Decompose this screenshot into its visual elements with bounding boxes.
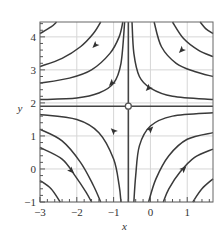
- trajectory-lower-right-2: [149, 133, 213, 202]
- y-axis-label: y: [17, 102, 23, 114]
- phase-portrait-chart: −3−2−101 −101234 x y: [0, 0, 224, 249]
- x-tick-label: 0: [148, 206, 154, 218]
- trajectory-upper-right-2: [154, 22, 213, 76]
- x-tick-labels: −3−2−101: [34, 206, 190, 218]
- arrow-icon: [177, 46, 186, 55]
- y-tick-label: 3: [31, 64, 37, 76]
- x-axis-label: x: [121, 220, 127, 232]
- y-tick-labels: −101234: [24, 31, 36, 208]
- trajectory-lower-left-3: [40, 148, 92, 202]
- y-tick-label: 1: [31, 130, 37, 142]
- trajectory-upper-right-3: [173, 22, 213, 57]
- grid-lines: [40, 22, 213, 202]
- y-tick-label: −1: [24, 196, 36, 208]
- trajectory-lower-right-4: [193, 179, 213, 202]
- y-tick-label: 0: [31, 163, 37, 175]
- x-tick-label: 1: [184, 206, 190, 218]
- trajectory-lower-right-3: [163, 149, 213, 202]
- trajectory-upper-right-4: [200, 22, 213, 34]
- trajectory-lower-left-1: [40, 114, 121, 202]
- trajectory-lower-left-4: [40, 181, 60, 202]
- arrow-icon: [144, 84, 153, 93]
- x-tick-label: −2: [71, 206, 83, 218]
- trajectory-upper-left-3: [40, 22, 123, 83]
- arrow-icon: [90, 41, 99, 50]
- y-tick-label: 2: [31, 97, 37, 109]
- trajectory-upper-left-4: [40, 22, 125, 100]
- y-tick-label: 4: [31, 31, 37, 43]
- trajectory-lower-left-2: [40, 129, 101, 202]
- fixed-point-marker: [125, 103, 131, 109]
- x-tick-label: −1: [108, 206, 120, 218]
